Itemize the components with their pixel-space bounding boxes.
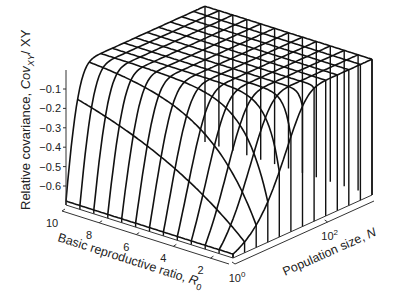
x-tick — [210, 256, 213, 258]
z-tick-label: −0.6 — [39, 180, 61, 192]
y-tick — [232, 262, 235, 264]
x-tick — [173, 244, 176, 246]
y-tick-label: 102 — [321, 228, 338, 242]
y-tick-label: 100 — [229, 270, 246, 284]
z-tick-label: −0.4 — [39, 141, 61, 153]
z-tick-label: −0.1 — [39, 83, 61, 95]
x-tick — [99, 221, 102, 223]
x-tick — [62, 209, 65, 211]
z-tick-label: −0.3 — [39, 122, 61, 134]
x-tick — [136, 233, 139, 235]
surface-mesh — [66, 6, 372, 258]
z-tick-label: −0.5 — [39, 161, 61, 173]
surface-plot: −0.1−0.2−0.3−0.4−0.5−0.6108642100102 Rel… — [0, 0, 393, 305]
y-tick — [325, 220, 328, 222]
x-tick-label: 10 — [46, 217, 58, 229]
z-axis-label: Relative covariance, CovXY/ XY — [18, 29, 36, 210]
z-tick-label: −0.2 — [39, 102, 61, 114]
x-axis-label: Basic reproductive ratio, R0 — [55, 231, 205, 293]
